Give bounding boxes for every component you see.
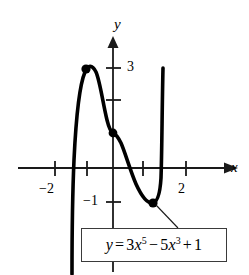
x-tick-label-neg2: −2 xyxy=(39,182,54,196)
equation-lhs: y xyxy=(106,236,113,253)
equation-constant: 1 xyxy=(194,236,202,253)
equation-term2-var: x xyxy=(168,236,175,253)
x-axis-label: x xyxy=(231,160,238,175)
equation-plus: + xyxy=(181,236,194,253)
local-maximum-point xyxy=(81,64,90,73)
equation-equals: = xyxy=(113,236,126,253)
inflection-point xyxy=(109,129,118,138)
y-tick-label-3: 3 xyxy=(127,60,134,74)
equation-minus: − xyxy=(147,236,160,253)
graph-figure: y x 3 −1 −2 2 y=3x5−5x3+1 xyxy=(0,0,249,275)
equation-callout-box: y=3x5−5x3+1 xyxy=(81,228,227,262)
marked-points xyxy=(81,64,157,207)
local-minimum-point xyxy=(148,198,157,207)
callout-leader-line xyxy=(156,205,178,228)
y-axis-label: y xyxy=(114,17,121,32)
equation-term1-var: x xyxy=(134,236,141,253)
equation-text: y=3x5−5x3+1 xyxy=(106,236,203,254)
y-tick-label-neg1: −1 xyxy=(83,194,98,208)
x-tick-label-2: 2 xyxy=(178,182,185,196)
